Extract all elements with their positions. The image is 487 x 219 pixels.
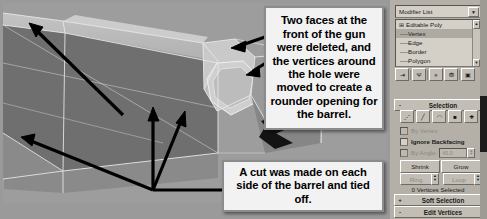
stack-item-edge-label: Edge [408,39,422,46]
screenshot-root: Two faces at the front of the gun were d… [0,0,487,219]
stack-item-border[interactable]: ──Border [396,47,480,56]
checkbox-ignore-backfacing[interactable]: Ignore Backfacing [400,137,465,146]
toolbar-divider [427,70,428,80]
checkbox-by-angle-label: By Angle: [411,149,437,156]
rollout-toggle-soft-selection[interactable]: + [395,197,405,203]
stack-item-polygon[interactable]: ──Polygon [396,56,480,65]
rollout-header-soft-selection[interactable]: + Soft Selection [394,194,482,206]
modifier-list-label: Modifier List [396,8,432,15]
checkbox-by-vertex[interactable]: By Vertex [400,126,437,135]
callout-barrel-opening-text: Two faces at the front of the gun were d… [266,14,382,122]
stack-item-edge[interactable]: ──Edge [396,38,480,47]
rollout-label-soft-selection: Soft Selection [405,197,481,204]
modifier-list-dropdown[interactable]: Modifier List ▼ [395,5,481,18]
modify-command-panel[interactable]: Modifier List ▼ ⊞Editable Poly ──Vertex … [390,0,487,219]
modifier-stack-toolbar[interactable]: ⇥ Ψ ⋄ ⛃ ▣ [395,68,479,81]
tree-branch-icon: ── [400,29,408,38]
stack-item-element[interactable]: ──Element [396,65,480,67]
rollout-label-edit-vertices: Edit Vertices [405,209,481,216]
by-angle-value[interactable]: 45.0 [439,148,467,158]
checkbox-box[interactable] [400,138,408,146]
stack-item-polygon-label: Polygon [408,57,430,64]
selection-rollout-body: ⋰ ╱ ◠ ■ ❖ By Vertex Ignore Backfacing By… [394,99,482,191]
scroll-down-icon[interactable]: ▼ [473,59,480,67]
loop-button[interactable]: Loop [443,173,475,185]
tree-branch-icon: ── [400,38,408,47]
checkbox-box[interactable] [400,149,408,157]
ring-button[interactable]: Ring [400,173,432,185]
callout-barrel-opening: Two faces at the front of the gun were d… [264,6,384,130]
edge-level-icon[interactable]: ╱ [416,110,430,123]
stack-item-vertex-label: Vertex [408,30,426,37]
grow-button[interactable]: Grow [441,160,481,173]
checkbox-by-vertex-label: By Vertex [411,127,437,134]
toolbar-divider [410,70,411,80]
tree-branch-icon: ── [400,65,408,67]
chevron-down-icon[interactable]: ▼ [468,7,479,17]
checkbox-box[interactable] [400,127,408,135]
selection-status-label: 0 Vertices Selected [394,186,482,193]
pin-stack-icon[interactable]: ⇥ [395,68,409,81]
stack-item-editable-poly[interactable]: ⊞Editable Poly [396,20,480,29]
rollout-header-edit-vertices[interactable]: - Edit Vertices [394,206,482,218]
by-angle-spinner[interactable]: ▲▼ [467,148,475,158]
stack-item-vertex[interactable]: ──Vertex [396,29,480,38]
shrink-button[interactable]: Shrink [400,160,440,173]
scrollbar-thumb[interactable] [480,96,487,152]
vertex-level-icon[interactable]: ⋰ [400,110,414,123]
rollout-toggle-edit-vertices[interactable]: - [395,209,405,215]
configure-modifier-sets-icon[interactable]: ▣ [461,68,475,81]
command-panel-scrollbar[interactable] [480,0,487,219]
tree-branch-icon: ── [400,56,408,65]
toolbar-divider [459,70,460,80]
callout-cut-tied-off-text: A cut was made on each side of the barre… [224,166,382,206]
make-unique-icon[interactable]: ⋄ [429,68,443,81]
border-level-icon[interactable]: ◠ [432,110,446,123]
checkbox-ignore-backfacing-label: Ignore Backfacing [411,138,465,145]
stack-item-editable-poly-label: Editable Poly [406,21,442,28]
stack-scrollbar[interactable]: ▲ ▼ [472,20,480,66]
polygon-level-icon[interactable]: ■ [448,110,462,123]
show-end-result-icon[interactable]: Ψ [412,68,426,81]
callout-cut-tied-off: A cut was made on each side of the barre… [222,160,384,212]
sub-object-level-buttons[interactable]: ⋰ ╱ ◠ ■ ❖ [400,111,478,122]
checkbox-by-angle[interactable]: By Angle: 45.0 ▲▼ [400,148,475,157]
ring-spinner[interactable]: ▲▼ [431,173,439,185]
element-level-icon[interactable]: ❖ [464,110,478,123]
stack-item-element-label: Element [408,66,431,67]
box-plus-icon[interactable]: ⊞ [399,20,406,29]
modifier-stack-list[interactable]: ⊞Editable Poly ──Vertex ──Edge ──Border … [395,19,481,67]
remove-modifier-icon[interactable]: ⛃ [444,68,458,81]
scroll-up-icon[interactable]: ▲ [473,20,480,29]
tree-branch-icon: ── [400,47,408,56]
stack-item-border-label: Border [408,48,427,55]
